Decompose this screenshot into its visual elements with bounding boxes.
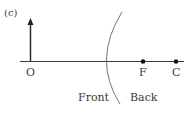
object-point-label: O — [26, 67, 35, 78]
focal-point-dot — [141, 59, 146, 64]
panel-label: (c) — [4, 8, 17, 18]
front-label: Front — [78, 92, 109, 103]
center-label: C — [172, 67, 180, 78]
back-label: Back — [130, 92, 157, 103]
center-of-curvature-dot — [174, 59, 179, 64]
mirror-diagram: (c) O F C Front Back — [0, 0, 188, 114]
object-arrow-head-icon — [28, 18, 34, 25]
focal-point-label: F — [139, 67, 147, 78]
